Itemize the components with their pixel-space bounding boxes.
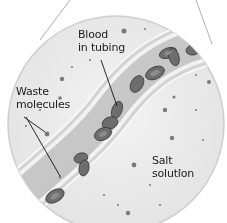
label-waste-line1: Waste — [16, 85, 70, 98]
zoom-line-right — [196, 0, 212, 44]
label-salt-line1: Salt — [152, 154, 194, 167]
label-blood-line2: in tubing — [78, 41, 125, 54]
label-blood-in-tubing: Blood in tubing — [78, 28, 125, 54]
label-waste-line2: molecules — [16, 98, 70, 111]
label-waste-molecules: Waste molecules — [16, 85, 70, 111]
label-salt-line2: solution — [152, 167, 194, 180]
label-salt-solution: Salt solution — [152, 154, 194, 180]
label-blood-line1: Blood — [78, 28, 125, 41]
